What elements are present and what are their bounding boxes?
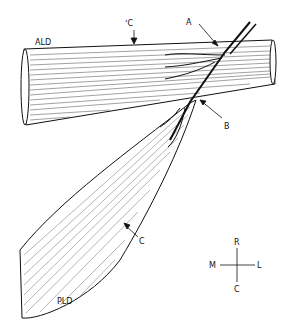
label-a: A [186, 18, 192, 27]
label-c-top: ʻC [125, 19, 134, 28]
pld-muscle [20, 100, 196, 318]
label-pld: PLD [57, 297, 72, 306]
compass-m: M [209, 261, 216, 270]
compass-r: R [234, 238, 240, 247]
label-ald: ALD [35, 38, 51, 47]
muscle-diagram: ALD PLD A B ʻC C R C M L [0, 0, 291, 333]
label-c-bottom: C [139, 237, 145, 246]
ald-muscle [21, 40, 276, 125]
compass-l: L [257, 261, 262, 270]
arrow-c-top [131, 30, 137, 44]
orientation-compass: R C M L [209, 238, 262, 294]
label-b: B [224, 122, 230, 131]
arrow-b [200, 100, 222, 118]
compass-c: C [234, 285, 240, 294]
